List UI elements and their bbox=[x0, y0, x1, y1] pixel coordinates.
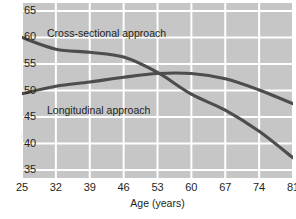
y-tick-label: 40 bbox=[24, 138, 44, 149]
x-tick-label: 39 bbox=[77, 181, 103, 193]
y-tick-label: 65 bbox=[24, 5, 44, 16]
x-tick-label: 32 bbox=[43, 181, 69, 193]
x-tick-label: 74 bbox=[246, 181, 272, 193]
x-tick-label: 67 bbox=[212, 181, 238, 193]
y-tick-label: 60 bbox=[24, 31, 44, 42]
x-tick-label: 81 bbox=[280, 181, 296, 193]
y-tick-label: 55 bbox=[24, 58, 44, 69]
x-axis-title: Age (years) bbox=[22, 197, 293, 209]
x-tick-label: 25 bbox=[9, 181, 35, 193]
reasoning-ability-line-chart: Reasoning ability score 65605550454035 2… bbox=[0, 0, 296, 219]
y-tick-label: 50 bbox=[24, 85, 44, 96]
series-label-longitudinal: Longitudinal approach bbox=[47, 104, 150, 116]
x-tick-label: 60 bbox=[178, 181, 204, 193]
series-label-cross-sectional: Cross-sectional approach bbox=[47, 27, 166, 39]
x-tick-label: 46 bbox=[111, 181, 137, 193]
y-tick-label: 35 bbox=[24, 164, 44, 175]
x-tick-label: 53 bbox=[145, 181, 171, 193]
y-tick-label: 45 bbox=[24, 111, 44, 122]
